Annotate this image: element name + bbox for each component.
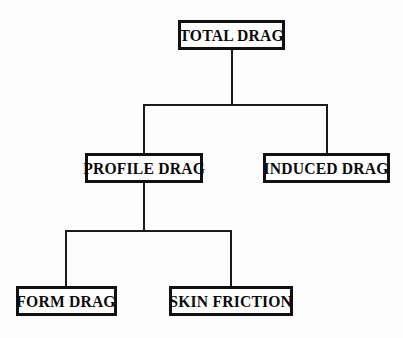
- connector-bus-level-1: [143, 104, 328, 106]
- node-skin-friction: SKIN FRICTION: [169, 286, 293, 316]
- node-total-drag: TOTAL DRAG: [178, 20, 285, 50]
- node-total-drag-label: TOTAL DRAG: [179, 27, 283, 44]
- node-induced-drag-label: INDUCED DRAG: [264, 160, 389, 177]
- node-skin-friction-label: SKIN FRICTION: [170, 293, 293, 310]
- node-profile-drag: PROFILE DRAG: [85, 153, 203, 183]
- connector-bus-level-2: [65, 230, 232, 232]
- connector-bus-to-skin: [230, 230, 232, 288]
- connector-profile-to-bus: [143, 183, 145, 232]
- node-form-drag-label: FORM DRAG: [17, 293, 116, 310]
- node-form-drag: FORM DRAG: [16, 286, 117, 316]
- connector-bus-to-profile: [143, 104, 145, 155]
- node-profile-drag-label: PROFILE DRAG: [83, 160, 205, 177]
- connector-total-to-bus: [231, 50, 233, 106]
- node-induced-drag: INDUCED DRAG: [263, 153, 390, 183]
- connector-bus-to-induced: [326, 104, 328, 155]
- drag-classification-diagram: TOTAL DRAG PROFILE DRAG INDUCED DRAG FOR…: [0, 0, 403, 338]
- connector-bus-to-form: [65, 230, 67, 288]
